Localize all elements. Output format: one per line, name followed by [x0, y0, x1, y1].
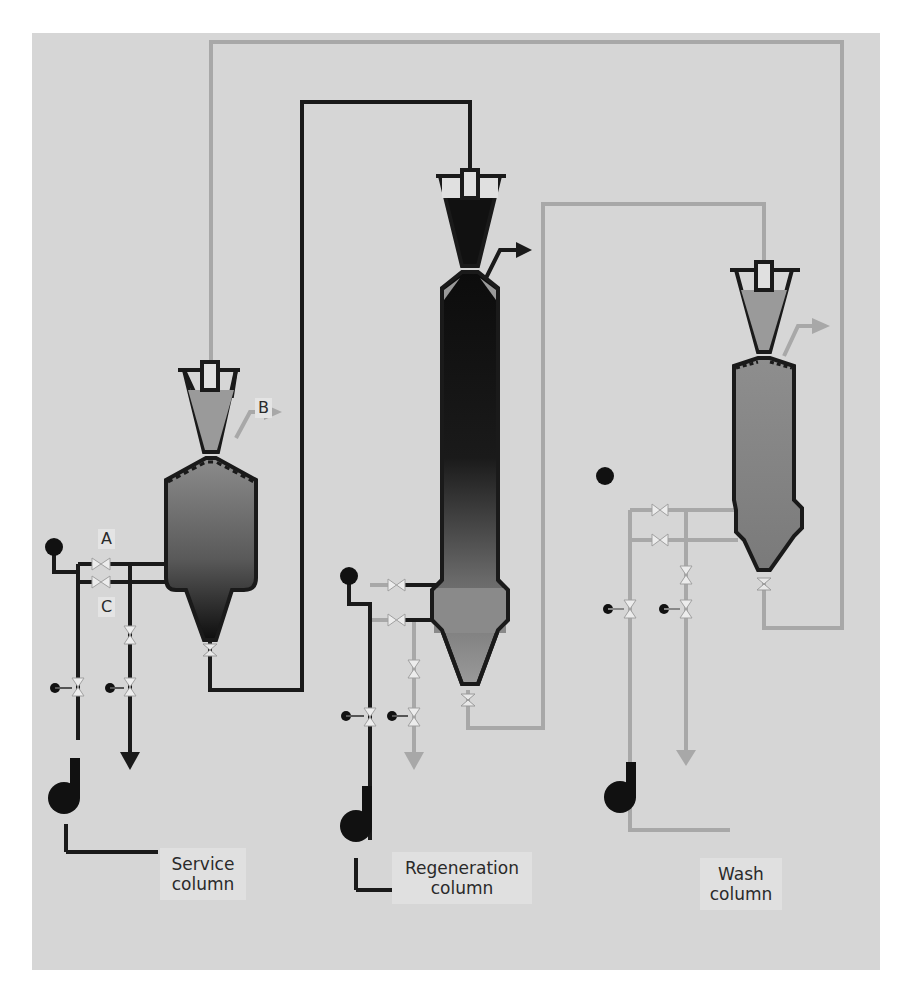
- stream-label-c: C: [98, 597, 115, 617]
- wash-column: [730, 262, 802, 590]
- service-label-line1: Service: [168, 854, 238, 874]
- regeneration-label-line1: Regeneration: [400, 858, 524, 878]
- wash-column-label: Wash column: [700, 858, 782, 910]
- stream-label-a: A: [98, 529, 115, 549]
- regen-outlet-arrow-icon: [516, 242, 532, 258]
- gauges: [45, 467, 680, 721]
- wash-outlet-arrow-icon: [812, 318, 830, 334]
- wash-label-line2: column: [708, 884, 774, 904]
- regeneration-column-label: Regeneration column: [392, 852, 532, 904]
- wash-drain-arrow-icon: [676, 750, 696, 766]
- stream-label-b: B: [255, 398, 272, 418]
- pump-icon-regeneration: [340, 786, 372, 842]
- service-column-label: Service column: [160, 848, 246, 900]
- service-column: [166, 362, 256, 656]
- regen-drain-arrow-icon: [404, 752, 424, 770]
- pump-icon-service: [48, 758, 80, 814]
- pump-icon-wash: [604, 762, 636, 813]
- wash-label-line1: Wash: [708, 864, 774, 884]
- regeneration-label-line2: column: [400, 878, 524, 898]
- service-drain-arrow-icon: [120, 752, 140, 770]
- regeneration-column: [432, 170, 508, 706]
- service-label-line2: column: [168, 874, 238, 894]
